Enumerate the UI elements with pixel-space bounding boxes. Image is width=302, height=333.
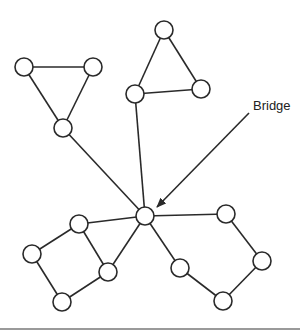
graph-node [23,245,41,263]
graph-node [53,293,71,311]
graph-edge [63,128,145,216]
graph-edge [164,30,201,89]
graph-node [192,80,210,98]
graph-node [70,215,88,233]
graph-edge [145,214,226,216]
graph-node [84,58,102,76]
graph-node [15,58,33,76]
graph-node [171,259,189,277]
graph-edges [24,30,262,302]
graph-edge [108,216,145,272]
graph-edge [79,216,145,224]
bridge-label: Bridge [253,98,291,113]
bottom-rule [0,328,300,330]
graph-node [155,21,173,39]
graph-node [99,263,117,281]
graph-node [253,252,271,270]
graph-edge [135,30,164,94]
graph-nodes [15,21,271,311]
graph-node [54,119,72,137]
graph-edge [24,67,63,128]
bridge-arrow [157,113,249,207]
graph-node [214,292,232,310]
graph-diagram: Bridge [0,0,302,333]
graph-node [136,207,154,225]
graph-edge [135,94,145,216]
graph-edge [135,89,201,94]
graph-node [217,205,235,223]
graph-node [126,85,144,103]
graph-edge [63,67,93,128]
